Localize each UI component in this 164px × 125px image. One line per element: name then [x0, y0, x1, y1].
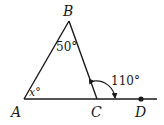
label-c: C	[91, 104, 102, 120]
side-bc	[69, 21, 97, 99]
point-d-dot	[138, 96, 143, 101]
label-b: B	[62, 3, 73, 19]
label-d: D	[134, 104, 146, 120]
angle-b-label: 50°	[56, 40, 77, 54]
label-a: A	[9, 104, 21, 120]
triangle-diagram: B A C D 50° x° 110°	[0, 0, 164, 125]
angle-exterior-c-label: 110°	[111, 74, 140, 88]
angle-a-label: x°	[29, 86, 41, 99]
